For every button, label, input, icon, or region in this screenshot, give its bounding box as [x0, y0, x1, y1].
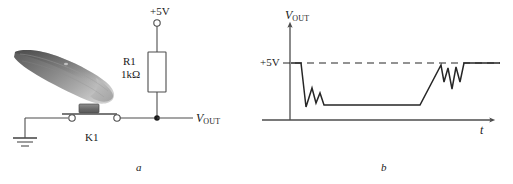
circuit-diagram	[13, 20, 193, 146]
vout-trace	[291, 63, 500, 107]
figure-container: +5V R1 1kΩ VOUT K1 a VOUT +5V t b	[0, 0, 513, 184]
resistor-value-label: 1kΩ	[121, 69, 140, 80]
switch-left-terminal-icon	[69, 115, 75, 121]
y-axis-label-sub: OUT	[292, 14, 309, 23]
circuit-output-label: VOUT	[196, 112, 220, 124]
pushbutton-cap	[79, 104, 99, 113]
switch-right-terminal-icon	[114, 115, 120, 121]
ground-icon	[13, 118, 37, 146]
resistor-designator-label: R1	[123, 56, 136, 67]
caption-a: a	[136, 162, 142, 173]
figure-graphics	[0, 0, 513, 184]
resistor-r1-body	[148, 52, 166, 92]
y-axis-label: VOUT	[285, 9, 309, 21]
supply-terminal-icon	[154, 20, 160, 26]
switch-designator-label: K1	[85, 132, 98, 143]
supply-voltage-label: +5V	[150, 6, 170, 17]
waveform-plot	[262, 25, 500, 120]
circuit-output-label-sub: OUT	[203, 117, 220, 126]
x-axis-label: t	[480, 124, 483, 136]
y-axis-tick-label-5v: +5V	[260, 57, 280, 68]
finger-photo	[14, 50, 114, 104]
caption-b: b	[381, 162, 387, 173]
